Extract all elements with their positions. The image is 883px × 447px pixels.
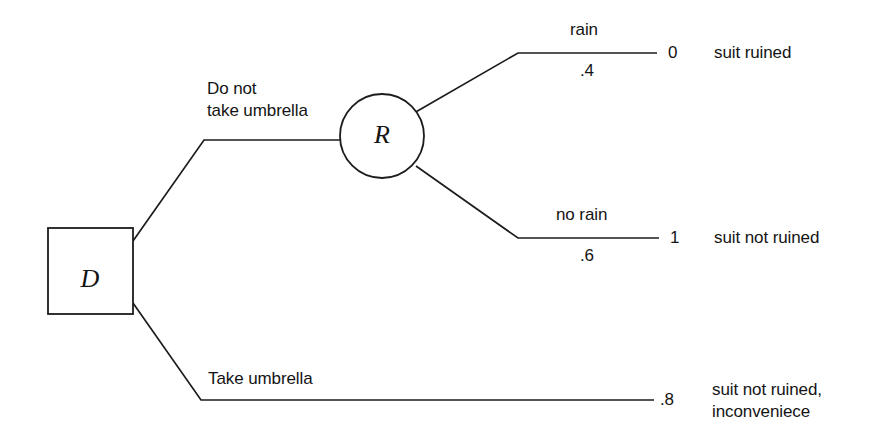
branch-label-do-not-take-umbrella-line1: Do not — [207, 78, 308, 100]
branch-probability-rain: .4 — [580, 61, 594, 81]
branch-label-take-umbrella: Take umbrella — [208, 369, 313, 389]
outcome-description-take-umbrella: suit not ruined, inconveniece — [712, 379, 822, 423]
outcome-value-rain: 0 — [668, 43, 677, 63]
branch-label-do-not-take-umbrella-line2: take umbrella — [207, 100, 308, 122]
chance-node-r-label: R — [373, 120, 390, 149]
outcome-description-rain: suit ruined — [714, 43, 791, 63]
branch-label-no-rain: no rain — [556, 205, 607, 225]
branch-probability-no-rain: .6 — [580, 246, 594, 266]
branch-label-rain: rain — [570, 20, 598, 40]
branch-line-rain — [414, 53, 657, 113]
outcome-description-no-rain: suit not ruined — [714, 228, 819, 248]
decision-tree-diagram: D R Do not take umbrella Take umbrella r… — [0, 0, 883, 447]
branch-label-do-not-take-umbrella: Do not take umbrella — [207, 78, 308, 122]
outcome-value-take-umbrella: .8 — [660, 390, 674, 410]
outcome-description-take-umbrella-line1: suit not ruined, — [712, 379, 822, 401]
outcome-value-no-rain: 1 — [670, 228, 679, 248]
branch-line-do-not-take-umbrella — [133, 140, 343, 241]
outcome-description-take-umbrella-line2: inconveniece — [712, 401, 822, 423]
decision-node-d-label: D — [80, 264, 100, 293]
branch-line-no-rain — [416, 166, 659, 238]
